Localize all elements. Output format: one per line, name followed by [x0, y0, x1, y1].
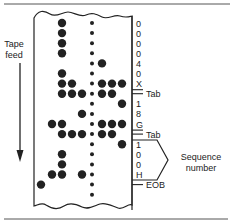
character-label: 0 — [136, 49, 141, 59]
sprocket-hole — [90, 51, 94, 55]
punch-hole — [98, 90, 106, 98]
character-label: G — [136, 120, 143, 130]
sprocket-hole — [90, 102, 94, 106]
character-label: 0 — [136, 69, 141, 79]
sprocket-hole — [90, 142, 94, 146]
sprocket-hole — [90, 122, 94, 126]
punch-hole — [68, 130, 76, 138]
punch-hole — [98, 120, 106, 128]
punch-hole — [98, 59, 106, 67]
punch-hole — [118, 140, 126, 148]
punch-hole — [78, 170, 86, 178]
sprocket-hole — [90, 162, 94, 166]
sprocket-hole — [90, 152, 94, 156]
sprocket-hole — [90, 92, 94, 96]
punch-hole — [58, 79, 66, 87]
punch-hole — [58, 69, 66, 77]
punch-hole — [58, 90, 66, 98]
sprocket-hole — [90, 132, 94, 136]
punch-hole — [58, 29, 66, 37]
sprocket-hole — [90, 173, 94, 177]
sprocket-hole — [90, 82, 94, 86]
punch-hole — [108, 79, 116, 87]
character-label: 0 — [136, 19, 141, 29]
character-label: 1 — [136, 140, 141, 150]
punch-hole — [58, 39, 66, 47]
punch-hole — [108, 120, 116, 128]
character-label: 0 — [136, 39, 141, 49]
punch-hole — [98, 130, 106, 138]
sprocket-hole — [90, 41, 94, 45]
punch-hole — [78, 90, 86, 98]
character-label: 4 — [136, 59, 141, 69]
punch-hole — [37, 180, 45, 188]
sprocket-hole — [90, 21, 94, 25]
eob-label: EOB — [146, 180, 165, 190]
feed-arrow-icon — [17, 63, 24, 162]
punch-hole — [58, 150, 66, 158]
punch-hole — [58, 49, 66, 57]
punch-hole — [58, 130, 66, 138]
sprocket-hole — [90, 31, 94, 35]
punch-hole — [68, 79, 76, 87]
character-label: X — [136, 79, 142, 89]
tab-label: Tab — [146, 130, 161, 140]
punch-hole — [118, 120, 126, 128]
sequence-label-line1: Sequence — [181, 152, 222, 162]
character-labels: 000040XTab18GTab100HEOB — [132, 19, 165, 191]
character-label: H — [136, 170, 143, 180]
punch-hole — [58, 19, 66, 27]
punched-tape-diagram: 000040XTab18GTab100HEOB Tape feed Sequen… — [0, 0, 235, 223]
character-label: 8 — [136, 109, 141, 119]
punch-hole — [108, 90, 116, 98]
feed-label-line2: feed — [5, 50, 23, 60]
punch-hole — [48, 120, 56, 128]
punch-hole — [98, 79, 106, 87]
punch-hole — [78, 110, 86, 118]
character-label: 1 — [136, 99, 141, 109]
punch-hole — [118, 79, 126, 87]
sprocket-hole — [90, 183, 94, 187]
punch-hole — [58, 170, 66, 178]
feed-label-line1: Tape — [4, 39, 24, 49]
punch-hole — [118, 100, 126, 108]
character-label: 0 — [136, 160, 141, 170]
sprocket-hole — [90, 112, 94, 116]
punch-hole — [68, 90, 76, 98]
tab-label: Tab — [146, 89, 161, 99]
punch-hole — [78, 130, 86, 138]
sprocket-hole — [90, 72, 94, 76]
sprocket-hole — [90, 193, 94, 197]
sprocket-hole — [90, 61, 94, 65]
character-label: 0 — [136, 150, 141, 160]
sequence-label-line2: number — [186, 163, 217, 173]
character-label: 0 — [136, 29, 141, 39]
punch-hole — [48, 170, 56, 178]
punch-hole — [108, 130, 116, 138]
punch-hole — [58, 120, 66, 128]
punch-hole — [58, 160, 66, 168]
